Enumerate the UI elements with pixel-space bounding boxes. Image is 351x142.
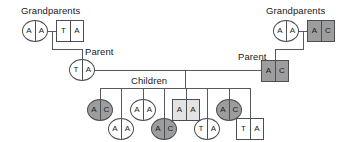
allele-right: C [229, 100, 241, 120]
drop-to-child-8 [250, 88, 251, 118]
grandparents-left-label: Grandparents [21, 6, 80, 16]
allele-right: A [207, 119, 219, 139]
child-2[interactable]: A A [108, 118, 134, 140]
pedigree-diagram: Grandparents Grandparents Parent Parent … [0, 0, 351, 142]
drop-to-child-3 [143, 88, 144, 99]
allele-right: C [321, 21, 334, 41]
allele-left: A [173, 100, 186, 120]
allele-right: A [35, 21, 47, 41]
allele-left: A [274, 21, 286, 41]
allele-left: A [23, 21, 35, 41]
child-8[interactable]: T A [236, 118, 264, 140]
grandparent-right-female[interactable]: A A [273, 20, 299, 42]
grandparents-right-label: Grandparents [266, 6, 325, 16]
drop-to-child-5 [186, 88, 187, 99]
sibship-line-children [100, 88, 250, 89]
child-1[interactable]: A C [87, 99, 113, 121]
allele-right: A [82, 60, 94, 80]
allele-left: A [131, 100, 143, 120]
drop-to-child-4 [164, 88, 165, 118]
allele-left: A [109, 119, 121, 139]
descent-drop-parents [185, 70, 186, 88]
children-label: Children [131, 76, 167, 86]
drop-to-child-7 [229, 88, 230, 99]
allele-left: T [57, 21, 70, 41]
descent-drop-grandparents-right [303, 31, 304, 49]
grandparent-left-male[interactable]: T A [56, 20, 84, 42]
drop-to-child-2 [121, 88, 122, 118]
allele-right: A [121, 119, 133, 139]
sibship-line-grandparents-left [52, 49, 83, 50]
allele-left: T [237, 119, 250, 139]
child-3[interactable]: A A [130, 99, 156, 121]
allele-right: A [70, 21, 83, 41]
allele-right: A [250, 119, 263, 139]
child-4[interactable]: A C [151, 118, 177, 140]
child-5[interactable]: A A [172, 99, 200, 121]
allele-left: T [70, 60, 82, 80]
descent-drop-grandparents-left [52, 31, 53, 49]
drop-to-child-1 [100, 88, 101, 99]
allele-right: A [186, 100, 199, 120]
allele-right: A [143, 100, 155, 120]
drop-to-child-6 [207, 88, 208, 118]
allele-left: A [217, 100, 229, 120]
grandparent-right-male[interactable]: A C [307, 20, 335, 42]
allele-left: A [308, 21, 321, 41]
allele-left: A [88, 100, 100, 120]
allele-left: T [195, 119, 207, 139]
allele-right: A [286, 21, 298, 41]
parent-left-label: Parent [85, 47, 114, 57]
child-6[interactable]: T A [194, 118, 220, 140]
sibship-line-grandparents-right [275, 49, 304, 50]
allele-right: C [100, 100, 112, 120]
allele-right: C [164, 119, 176, 139]
parent-left-female[interactable]: T A [69, 59, 95, 81]
parent-right-male[interactable]: A C [261, 60, 289, 82]
allele-left: A [152, 119, 164, 139]
allele-right: C [275, 61, 288, 81]
allele-left: A [262, 61, 275, 81]
grandparent-left-female[interactable]: A A [22, 20, 48, 42]
